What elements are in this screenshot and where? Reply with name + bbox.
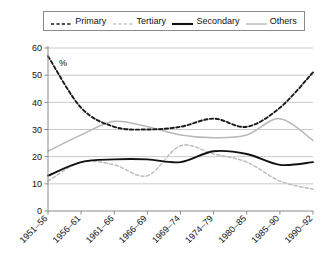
line-chart: Primary Tertiary Secondary: [0, 0, 331, 259]
x-tick-label: 1990–92: [283, 213, 315, 245]
plot-area: 0102030405060 1951–561956–611961–661966–…: [0, 0, 331, 259]
x-tick-label: 1956–61: [51, 213, 83, 245]
y-axis-tick-labels: 0102030405060: [32, 43, 42, 216]
x-tick-label: 1980–85: [216, 213, 248, 245]
y-tick-label: 40: [32, 98, 42, 108]
x-tick-label: 1969–74: [150, 213, 182, 245]
x-tick-label: 1951–56: [18, 213, 50, 245]
series-line-secondary: [48, 151, 313, 176]
x-tick-label: 1985–90: [249, 213, 281, 245]
x-axis-tick-labels: 1951–561956–611961–661966–691969–741974–…: [18, 213, 315, 245]
y-tick-label: 10: [32, 179, 42, 189]
series-lines: [48, 56, 313, 189]
series-line-tertiary: [48, 145, 313, 189]
y-tick-label: 60: [32, 43, 42, 53]
x-tick-label: 1966–69: [117, 213, 149, 245]
series-line-primary: [48, 56, 313, 129]
x-tick-label: 1974–79: [183, 213, 215, 245]
percent-unit-annotation: %: [59, 58, 67, 68]
y-tick-label: 50: [32, 70, 42, 80]
x-tick-label: 1961–66: [84, 213, 116, 245]
y-tick-label: 30: [32, 125, 42, 135]
y-axis-ticks: [45, 48, 49, 211]
y-tick-label: 20: [32, 152, 42, 162]
